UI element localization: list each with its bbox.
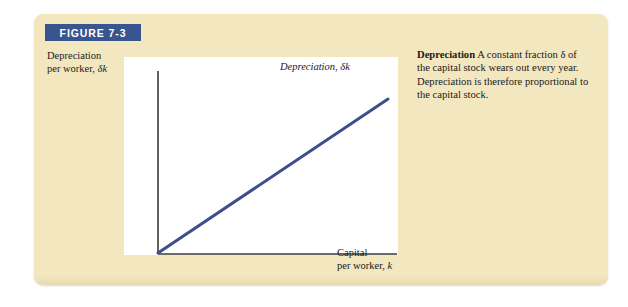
figure-number-label: FIGURE 7-3	[60, 27, 127, 39]
depreciation-line	[158, 99, 388, 253]
chart-svg	[124, 57, 398, 255]
figure-card: FIGURE 7-3 Depreciation per worker, δk D…	[34, 14, 608, 285]
axis-variable-symbol: k	[388, 260, 393, 271]
axis-variable-symbol: δk	[98, 63, 108, 74]
y-axis-label: Depreciation per worker, δk	[47, 50, 125, 75]
figure-number-banner: FIGURE 7-3	[45, 24, 141, 41]
depreciation-line-label: Depreciation, δk	[280, 61, 350, 72]
figure-caption-title: Depreciation	[417, 49, 475, 60]
y-axis-label-text: Depreciation per worker, δk	[47, 50, 107, 74]
x-axis-label: Capital per worker, k	[337, 247, 427, 272]
x-axis-label-text: Capital per worker, k	[337, 247, 392, 271]
plot-area	[124, 57, 398, 255]
figure-caption: Depreciation A constant fraction δ of th…	[417, 48, 589, 102]
